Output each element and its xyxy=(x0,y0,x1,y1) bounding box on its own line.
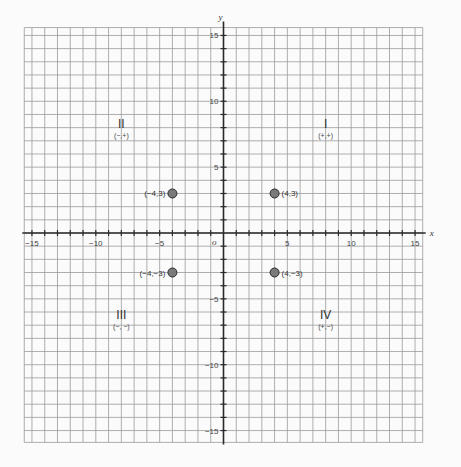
y-tick-label: −5 xyxy=(209,295,219,304)
quadrant-signs: (−, −) xyxy=(113,323,130,331)
y-tick-label: −10 xyxy=(205,361,219,370)
x-tick-label: −15 xyxy=(25,239,39,248)
y-axis-label: y xyxy=(218,12,223,22)
data-point xyxy=(270,189,279,198)
point-label: (4,3) xyxy=(282,189,299,198)
quadrant-signs: (+,−) xyxy=(318,323,333,331)
y-tick-label: 10 xyxy=(210,97,219,106)
y-tick-label: −15 xyxy=(205,427,219,436)
data-point xyxy=(270,268,279,277)
x-tick-label: 15 xyxy=(411,239,420,248)
quadrant-numeral: IV xyxy=(320,308,331,322)
point-label: (4,−3) xyxy=(282,269,303,278)
quadrant-numeral: III xyxy=(116,308,126,322)
quadrant-numeral: II xyxy=(118,117,125,131)
x-tick-label: −10 xyxy=(89,239,103,248)
y-tick-label: 5 xyxy=(214,163,219,172)
origin-label: o xyxy=(212,237,217,247)
quadrant-signs: (+,+) xyxy=(318,132,333,140)
data-point xyxy=(168,268,177,277)
x-tick-label: 10 xyxy=(347,239,356,248)
x-tick-label: −5 xyxy=(155,239,165,248)
y-tick-label: 15 xyxy=(210,31,219,40)
point-label: (−4,3) xyxy=(144,189,165,198)
quadrant-numeral: I xyxy=(324,117,327,131)
data-point xyxy=(168,189,177,198)
quadrant-signs: (−,+) xyxy=(114,132,129,140)
x-tick-label: 5 xyxy=(285,239,290,248)
coordinate-plane: −15−10−55101515105−5−10−15xyo I(+,+)II(−… xyxy=(0,0,461,467)
point-label: (−4,−3) xyxy=(140,269,166,278)
x-axis-label: x xyxy=(429,228,434,238)
